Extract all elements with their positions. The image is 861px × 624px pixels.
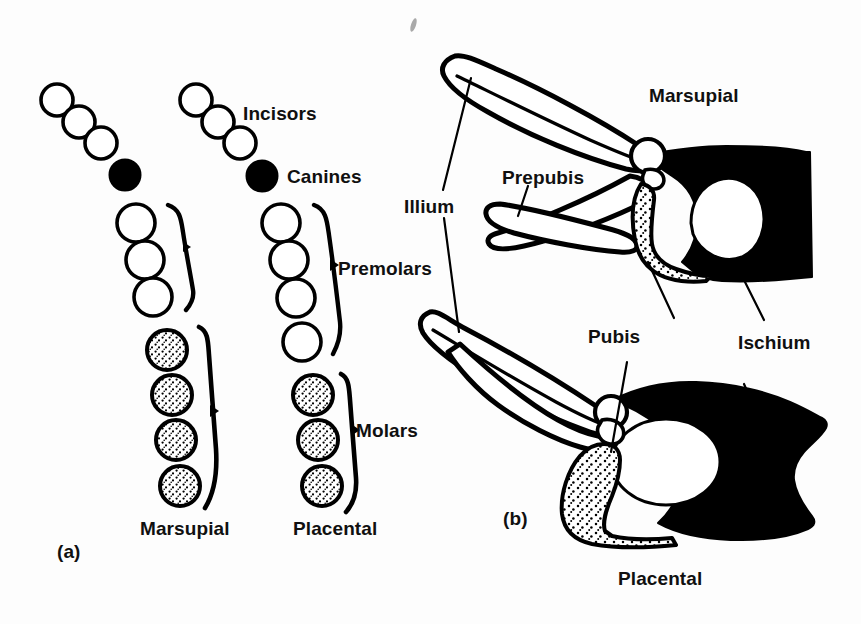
tooth-premolar [134,278,172,316]
marsupial-obturator-foramen [691,178,764,259]
placental-premolars [262,204,321,361]
placental-canines [247,161,278,192]
tooth-molar [293,375,333,415]
canines-label: Canines [287,166,362,188]
placental-obturator-foramen [612,419,720,505]
panel-a-marker: (a) [57,541,81,563]
placental-molars [293,375,342,506]
tooth-canine [110,160,141,191]
placental-dentition-group [180,84,360,512]
tooth-premolar [283,323,321,361]
incisors-label: Incisors [243,103,317,125]
tooth-canine [247,161,278,192]
marsupial-molars [147,330,200,506]
placental-pelvis-label: Placental [618,568,702,590]
marsupial-pelvis-drawing [442,56,812,282]
tooth-molar [160,466,200,506]
pubis-label: Pubis [588,326,640,348]
marsupial-canines [110,160,141,191]
tooth-incisor [85,127,117,159]
marsupial-molar-bracket [199,327,216,508]
anatomy-figure: Incisors Canines Premolars Molars Marsup… [0,0,861,624]
tooth-molar [147,330,187,370]
panel-b-marker: (b) [503,508,528,530]
placental-dentition-label: Placental [293,518,377,540]
marsupial-premolars [117,204,172,316]
tooth-premolar [270,241,308,279]
tooth-premolar [277,279,315,317]
marsupial-incisors [41,84,117,159]
illium-leader-upper [443,78,471,190]
tooth-premolar [262,204,300,242]
molars-label: Molars [356,420,418,442]
tooth-premolar [126,241,164,279]
tooth-molar [302,466,342,506]
tooth-molar [152,375,192,415]
tooth-molar [298,420,338,460]
ischium-label: Ischium [738,332,811,354]
marsupial-pelvis-label: Marsupial [649,85,739,107]
marsupial-dentition-label: Marsupial [140,518,230,540]
premolars-label: Premolars [338,258,432,280]
placental-acetabulum-notch [598,419,624,444]
ischium-leader-upper [744,280,764,320]
tooth-incisor [224,127,256,159]
tooth-molar [156,420,196,460]
illium-label: Illium [404,196,454,218]
marsupial-dentition-group [41,84,219,508]
prepubis-label: Prepubis [502,167,584,189]
tooth-premolar [117,204,155,242]
